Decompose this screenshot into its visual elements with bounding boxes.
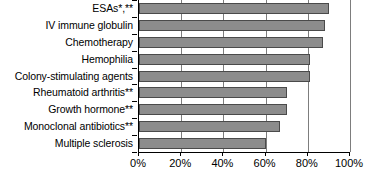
category-tick: [132, 84, 137, 85]
bar-row: [139, 34, 350, 51]
bar: [139, 121, 280, 132]
category-label: Monoclonal antibiotics**: [24, 121, 133, 132]
category-label-row: ESAs*,**: [0, 0, 136, 17]
category-label-row: Growth hormone**: [0, 101, 136, 118]
bar: [139, 20, 325, 31]
horizontal-bar-chart: ESAs*,**IV immune globulinChemotherapyHe…: [0, 0, 368, 175]
x-tick-80: [307, 152, 308, 156]
bar: [139, 54, 310, 65]
bar-row: [139, 135, 350, 152]
bar-row: [139, 0, 350, 17]
category-label: Rheumatoid arthritis**: [33, 87, 133, 98]
category-tick: [132, 152, 137, 153]
bar: [139, 104, 287, 115]
x-tick-100: [349, 152, 350, 156]
category-axis-labels: ESAs*,**IV immune globulinChemotherapyHe…: [0, 0, 136, 152]
x-axis-label: 0%: [130, 157, 146, 169]
bar: [139, 138, 266, 149]
bar-row: [139, 68, 350, 85]
category-tick: [132, 68, 137, 69]
category-label-row: Monoclonal antibiotics**: [0, 118, 136, 135]
bar-row: [139, 51, 350, 68]
x-axis-label: 20%: [169, 157, 191, 169]
category-label: ESAs*,**: [92, 3, 133, 14]
category-label: Multiple sclerosis: [55, 138, 133, 149]
x-tick-40: [222, 152, 223, 156]
bar-row: [139, 17, 350, 34]
category-tick: [132, 34, 137, 35]
bar: [139, 3, 329, 14]
plot-inner: [139, 0, 350, 152]
x-axis-label: 100%: [335, 157, 363, 169]
category-tick: [132, 0, 137, 1]
category-tick: [132, 118, 137, 119]
category-label-row: Rheumatoid arthritis**: [0, 84, 136, 101]
category-label-row: Colony-stimulating agents: [0, 68, 136, 85]
category-tick: [132, 135, 137, 136]
bar-series: [139, 0, 350, 152]
x-tick-60: [265, 152, 266, 156]
category-label-row: IV immune globulin: [0, 17, 136, 34]
bar: [139, 87, 287, 98]
category-label-row: Hemophilia: [0, 51, 136, 68]
x-axis-line: [138, 152, 350, 153]
x-tick-0: [138, 152, 139, 156]
category-tick: [132, 17, 137, 18]
category-label: Colony-stimulating agents: [15, 71, 133, 82]
category-label-row: Chemotherapy: [0, 34, 136, 51]
bar-row: [139, 118, 350, 135]
bar: [139, 37, 323, 48]
category-label: Hemophilia: [81, 54, 133, 65]
x-axis-label: 80%: [296, 157, 318, 169]
x-tick-20: [180, 152, 181, 156]
category-tick: [132, 51, 137, 52]
plot-area: [138, 0, 350, 152]
x-axis-label: 60%: [254, 157, 276, 169]
category-tick: [132, 101, 137, 102]
bar-row: [139, 101, 350, 118]
bar-row: [139, 84, 350, 101]
category-label: Growth hormone**: [48, 104, 133, 115]
category-label-row: Multiple sclerosis: [0, 135, 136, 152]
x-axis-label: 40%: [211, 157, 233, 169]
category-label: IV immune globulin: [46, 20, 134, 31]
x-axis-labels: 0%20%40%60%80%100%: [138, 157, 349, 173]
category-label: Chemotherapy: [65, 37, 133, 48]
bar: [139, 71, 310, 82]
gridline-100: [350, 0, 351, 152]
